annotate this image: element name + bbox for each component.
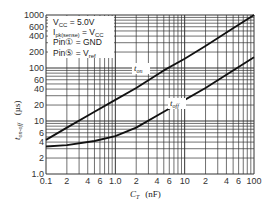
y-tick-label: 100 (29, 63, 44, 73)
x-tick-label: 4 (224, 176, 229, 186)
x-axis-label: CT(nF) (130, 189, 161, 200)
y-tick-label: 20 (34, 100, 44, 110)
x-tick-label: 10 (180, 176, 190, 186)
y-tick-label: 2 (39, 153, 44, 163)
y-tick-label: 4 (39, 137, 44, 147)
y-tick-label: 400 (29, 31, 44, 41)
x-tick-label: 4 (155, 176, 160, 186)
y-axis-label: ton-off(µs) (12, 100, 23, 140)
x-tick-label: 6 (97, 176, 102, 186)
x-tick-label: 2 (203, 176, 208, 186)
x-tick-label: 1.0 (109, 176, 122, 186)
x-tick-label: 100 (246, 176, 261, 186)
y-tick-label: 1000 (24, 10, 44, 20)
x-tick-label: 6 (236, 176, 241, 186)
x-tick-label: 2 (134, 176, 139, 186)
y-tick-label: 40 (34, 84, 44, 94)
chart: 0.12461.02461024610010006004002001006040… (0, 0, 276, 210)
y-tick-label: 200 (29, 47, 44, 57)
legend-pin1: Pin① = GND (53, 37, 102, 47)
x-tick-label: 6 (167, 176, 172, 186)
x-tick-label: 4 (85, 176, 90, 186)
x-tick-label: 2 (64, 176, 69, 186)
y-tick-label: 10 (34, 116, 44, 126)
y-tick-label: 1.0 (31, 169, 44, 179)
